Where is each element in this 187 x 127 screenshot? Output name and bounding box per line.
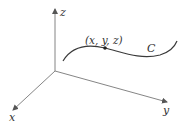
x-axis-label: x <box>9 111 16 124</box>
y-axis-label: y <box>162 104 170 117</box>
point-label: (x, y, z) <box>85 34 123 46</box>
z-axis-label: z <box>59 6 66 19</box>
y-axis <box>55 71 167 102</box>
point-marker <box>103 46 107 50</box>
axes <box>13 9 167 110</box>
curve-label: C <box>147 42 156 55</box>
x-axis <box>13 71 55 110</box>
diagram-canvas: z x y (x, y, z) C <box>0 0 187 127</box>
